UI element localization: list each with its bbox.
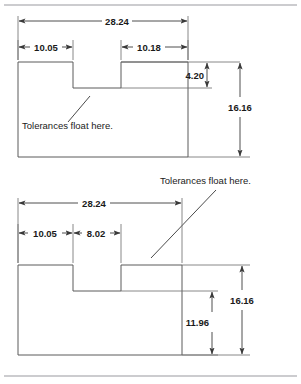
top-note-leader (68, 96, 90, 122)
top-dim-left-segment: 10.05 (34, 42, 58, 53)
bottom-part-view: Tolerances float here. 28.24 10.05 8.02 (18, 175, 254, 355)
top-dim-overall-height: 16.16 (228, 102, 252, 113)
top-note-label: Tolerances float here. (22, 120, 113, 131)
bottom-dim-notch-width: 8.02 (87, 228, 106, 239)
bottom-note-label: Tolerances float here. (160, 175, 251, 186)
bottom-dim-left-segment: 10.05 (33, 228, 57, 239)
technical-drawing-figure: 28.24 10.05 10.18 4.20 16.16 (0, 0, 301, 384)
top-dim-notch-depth: 4.20 (186, 70, 205, 81)
top-dim-overall-width: 28.24 (105, 16, 129, 27)
bottom-note-leader (151, 190, 216, 258)
drawing-canvas: 28.24 10.05 10.18 4.20 16.16 (0, 0, 301, 384)
bottom-part-outline (18, 265, 182, 355)
bottom-dim-lower-height: 11.96 (186, 317, 209, 328)
bottom-dim-overall-height: 16.16 (230, 295, 254, 306)
bottom-dim-overall-width: 28.24 (82, 198, 106, 209)
top-dim-right-segment: 10.18 (137, 42, 161, 53)
top-part-outline (18, 62, 188, 157)
top-part-view: 28.24 10.05 10.18 4.20 16.16 (18, 16, 252, 158)
